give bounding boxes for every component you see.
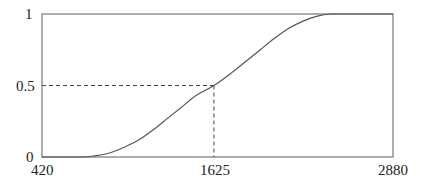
chart (0, 0, 423, 186)
y-tick-label-1: 1 (25, 7, 33, 22)
x-tick-label-2880: 2880 (378, 163, 408, 178)
x-tick-label-1625: 1625 (200, 163, 230, 178)
y-tick-label-0.5: 0.5 (16, 79, 35, 94)
x-tick-label-420: 420 (31, 163, 54, 178)
